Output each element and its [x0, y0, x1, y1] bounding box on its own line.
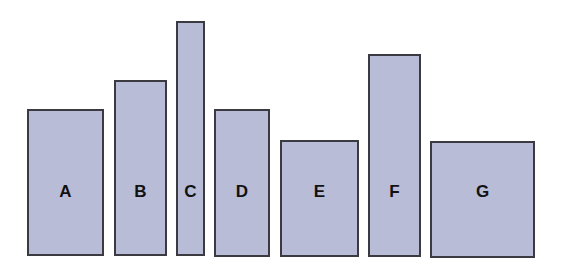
bar-label: C	[178, 183, 203, 200]
bar-b: B	[114, 80, 167, 256]
bar-label: F	[370, 183, 419, 200]
bar-d: D	[214, 109, 270, 257]
bar-g: G	[430, 141, 535, 258]
bar-label: A	[29, 183, 102, 200]
bar-c: C	[176, 21, 205, 256]
bar-label: G	[432, 183, 533, 200]
bar-label: B	[116, 183, 165, 200]
bar-label: E	[282, 183, 357, 200]
bar-a: A	[27, 109, 104, 256]
bar-label: D	[216, 183, 268, 200]
bar-e: E	[280, 140, 359, 257]
bar-f: F	[368, 54, 421, 257]
